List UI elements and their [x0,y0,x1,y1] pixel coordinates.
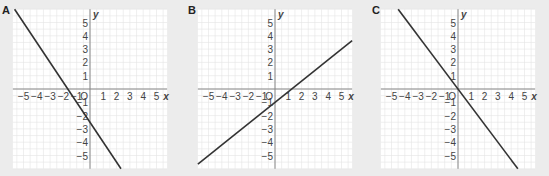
svg-text:4: 4 [82,31,88,42]
svg-text:5: 5 [522,91,528,102]
svg-text:x: x [347,91,354,102]
svg-text:−4: −4 [445,137,457,148]
svg-text:−5: −5 [386,91,398,102]
svg-text:3: 3 [82,44,88,55]
svg-text:−5: −5 [18,91,30,102]
svg-text:5: 5 [339,91,345,102]
svg-text:−2: −2 [426,91,438,102]
svg-text:x: x [530,91,537,102]
graph-c-plot: −5−4−3−2−112345−5−4−3−2−112345Oxy [370,0,549,176]
graph-b-plot: −5−4−3−2−112345−5−4−3−2−112345Oxy [186,0,366,176]
svg-text:3: 3 [127,91,133,102]
svg-text:−3: −3 [229,91,241,102]
svg-text:−4: −4 [216,91,228,102]
svg-text:2: 2 [482,91,488,102]
graph-a: A −5−4−3−2−112345−5−4−3−2−112345Oxy [0,0,180,176]
svg-text:−2: −2 [58,91,70,102]
svg-text:−3: −3 [44,91,56,102]
svg-text:3: 3 [267,44,273,55]
svg-text:2: 2 [114,91,120,102]
svg-text:−2: −2 [243,91,255,102]
svg-text:−3: −3 [445,124,457,135]
svg-text:−4: −4 [31,91,43,102]
svg-text:1: 1 [101,91,107,102]
svg-text:−3: −3 [262,124,274,135]
svg-text:y: y [277,9,284,20]
graph-c: C −5−4−3−2−112345−5−4−3−2−112345Oxy [370,0,549,176]
svg-text:2: 2 [450,57,456,68]
svg-text:O: O [80,91,88,102]
svg-text:5: 5 [267,18,273,29]
svg-text:−4: −4 [262,137,274,148]
svg-text:y: y [460,9,467,20]
svg-text:3: 3 [450,44,456,55]
svg-text:1: 1 [267,71,273,82]
svg-text:−5: −5 [445,151,457,162]
svg-text:2: 2 [299,91,305,102]
svg-text:4: 4 [508,91,514,102]
svg-text:O: O [265,91,273,102]
svg-text:−4: −4 [77,137,89,148]
svg-text:x: x [162,91,169,102]
svg-text:3: 3 [312,91,318,102]
svg-text:−3: −3 [77,124,89,135]
svg-text:−2: −2 [445,111,457,122]
svg-text:3: 3 [495,91,501,102]
svg-text:4: 4 [267,31,273,42]
svg-text:−5: −5 [203,91,215,102]
svg-text:5: 5 [154,91,160,102]
svg-text:5: 5 [82,18,88,29]
svg-text:−5: −5 [262,151,274,162]
svg-text:2: 2 [267,57,273,68]
graph-b: B −5−4−3−2−112345−5−4−3−2−112345Oxy [186,0,366,176]
svg-text:1: 1 [469,91,475,102]
svg-text:O: O [448,91,456,102]
svg-text:2: 2 [82,57,88,68]
svg-text:5: 5 [450,18,456,29]
svg-text:−3: −3 [412,91,424,102]
graph-a-plot: −5−4−3−2−112345−5−4−3−2−112345Oxy [0,0,180,176]
svg-text:4: 4 [450,31,456,42]
svg-text:1: 1 [82,71,88,82]
svg-text:y: y [92,9,99,20]
svg-text:4: 4 [325,91,331,102]
svg-text:−5: −5 [77,151,89,162]
svg-text:4: 4 [140,91,146,102]
svg-text:−4: −4 [399,91,411,102]
